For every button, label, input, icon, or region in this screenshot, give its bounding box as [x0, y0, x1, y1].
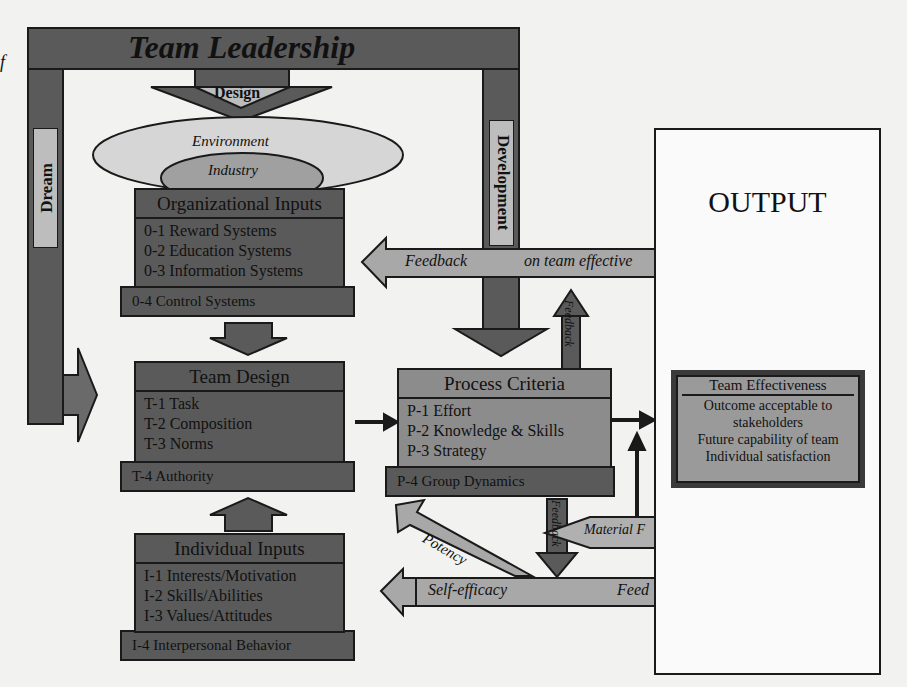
effectiveness-item: Individual satisfaction [678, 448, 858, 465]
team-design-base-label: T-4 Authority [132, 468, 214, 484]
individual-to-design-arrow [210, 498, 287, 531]
material-feedback-label: Material F [584, 522, 645, 538]
feedback-down-head [537, 553, 577, 577]
effectiveness-item: Outcome acceptable to stakeholders [678, 397, 858, 431]
feedback-up-label-text: Feedback [562, 300, 576, 347]
process-criteria-item: P-2 Knowledge & Skills [407, 421, 602, 441]
feedback-left-label: Feedback [405, 252, 467, 270]
feedback-right-label: on team effective [524, 252, 632, 270]
org-inputs-title: Organizational Inputs [136, 190, 343, 219]
individual-input-item: I-3 Values/Attitudes [144, 606, 335, 626]
output-box: OUTPUT Team Effectiveness Outcome accept… [654, 128, 881, 675]
team-design-item: T-3 Norms [144, 434, 335, 454]
org-to-design-arrow [210, 323, 287, 355]
process-base-label: P-4 Group Dynamics [397, 473, 525, 489]
feedback-down-label-text: Feedback [549, 500, 563, 547]
feedback-down-label: Feedback [548, 500, 563, 547]
team-design-base: T-4 Authority [120, 461, 355, 492]
process-criteria-title: Process Criteria [399, 370, 610, 399]
org-input-item: 0-3 Information Systems [144, 261, 335, 281]
design-label: Design [214, 84, 260, 102]
org-inputs-base-label: 0-4 Control Systems [132, 293, 255, 309]
development-label-text: Development [494, 135, 513, 230]
dream-arrow-head [63, 348, 97, 442]
industry-label: Industry [208, 162, 258, 179]
potency-arrow [396, 500, 532, 576]
self-efficacy-label: Self-efficacy [428, 581, 507, 599]
process-criteria-item: P-1 Effort [407, 401, 602, 421]
effectiveness-item: Future capability of team [678, 431, 858, 448]
individual-inputs-base-label: I-4 Interpersonal Behavior [132, 637, 291, 653]
process-criteria-item: P-3 Strategy [407, 441, 602, 461]
environment-label: Environment [192, 133, 269, 150]
team-design-box: Team Design T-1 Task T-2 Composition T-3… [134, 361, 345, 463]
individual-inputs-base: I-4 Interpersonal Behavior [120, 630, 355, 661]
team-design-item: T-1 Task [144, 394, 335, 414]
team-effectiveness-box: Team Effectiveness Outcome acceptable to… [671, 370, 865, 488]
dream-label-text: Dream [37, 163, 57, 213]
output-title: OUTPUT [656, 185, 879, 219]
team-effectiveness-title: Team Effectiveness [682, 377, 854, 396]
org-input-item: 0-2 Education Systems [144, 241, 335, 261]
individual-inputs-box: Individual Inputs I-1 Interests/Motivati… [134, 533, 345, 633]
feedback-up-label: Feedback [561, 300, 576, 347]
individual-inputs-title: Individual Inputs [136, 535, 343, 564]
org-inputs-box: Organizational Inputs 0-1 Reward Systems… [134, 188, 345, 288]
process-criteria-box: Process Criteria P-1 Effort P-2 Knowledg… [397, 368, 612, 468]
feedback-bottom-label: Feed [617, 581, 649, 599]
development-arrow-head [455, 329, 547, 356]
dream-label: Dream [33, 128, 58, 248]
org-inputs-base: 0-4 Control Systems [120, 286, 355, 317]
team-design-item: T-2 Composition [144, 414, 335, 434]
team-design-title: Team Design [136, 363, 343, 392]
leadership-title: Team Leadership [128, 29, 355, 66]
individual-input-item: I-2 Skills/Abilities [144, 586, 335, 606]
individual-input-item: I-1 Interests/Motivation [144, 566, 335, 586]
process-base: P-4 Group Dynamics [385, 466, 615, 497]
org-input-item: 0-1 Reward Systems [144, 221, 335, 241]
development-label: Development [489, 120, 514, 246]
